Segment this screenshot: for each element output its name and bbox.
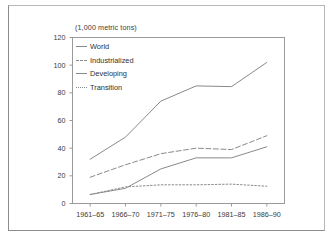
y-tick-label: 60 bbox=[44, 116, 66, 125]
legend-line-swatch-icon bbox=[76, 57, 87, 64]
legend-label: Developing bbox=[90, 69, 127, 78]
unit-label: (1,000 metric tons) bbox=[75, 23, 137, 32]
series-line-transition bbox=[90, 184, 267, 194]
legend-item-world[interactable]: World bbox=[76, 40, 186, 54]
y-tick-label: 80 bbox=[44, 88, 66, 97]
y-tick-label: 40 bbox=[44, 144, 66, 153]
legend-item-transition[interactable]: Transition bbox=[76, 81, 186, 95]
legend-line-swatch-icon bbox=[76, 43, 87, 50]
chart-legend: WorldIndustrializedDevelopingTransition bbox=[76, 40, 186, 94]
y-tick-label: 100 bbox=[44, 61, 66, 70]
legend-label: Transition bbox=[90, 83, 122, 92]
legend-label: Industrialized bbox=[90, 56, 134, 65]
y-tick-label: 20 bbox=[44, 171, 66, 180]
legend-item-industrialized[interactable]: Industrialized bbox=[76, 54, 186, 68]
y-tick-label: 120 bbox=[44, 33, 66, 42]
legend-line-swatch-icon bbox=[76, 70, 87, 77]
x-tick-label: 1986–90 bbox=[245, 210, 289, 219]
chart-page: (1,000 metric tons) WorldIndustrializedD… bbox=[0, 0, 332, 238]
legend-item-developing[interactable]: Developing bbox=[76, 67, 186, 81]
y-tick-label: 0 bbox=[44, 199, 66, 208]
series-line-industrialized bbox=[90, 136, 267, 178]
series-line-developing bbox=[90, 147, 267, 195]
legend-label: World bbox=[90, 42, 109, 51]
legend-line-swatch-icon bbox=[76, 84, 87, 91]
